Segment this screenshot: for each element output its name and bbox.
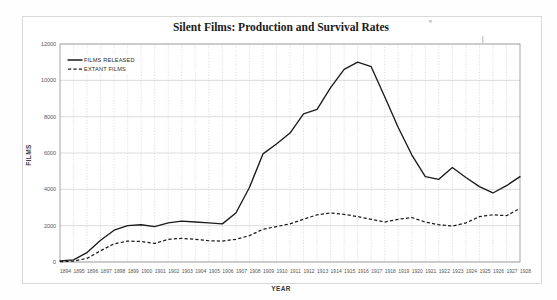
y-tick-label: 12000: [41, 41, 56, 47]
x-tick-label: 1894: [60, 268, 71, 274]
scan-speck: [482, 36, 484, 43]
x-tick-label: 1919: [398, 268, 409, 274]
x-tick-label: 1904: [195, 268, 206, 274]
x-tick-label: 1895: [74, 268, 85, 274]
scan-speck: [429, 20, 432, 23]
figure-container: Silent Films: Production and Survival Ra…: [0, 0, 557, 300]
x-tick-label: 1915: [344, 268, 355, 274]
x-tick-label: 1903: [182, 268, 193, 274]
x-tick-label: 1899: [128, 268, 139, 274]
x-tick-label: 1917: [371, 268, 382, 274]
x-tick-label: 1905: [209, 268, 220, 274]
y-tick-label: 6000: [44, 150, 56, 156]
x-tick-label: 1927: [506, 268, 517, 274]
x-tick-label: 1900: [141, 268, 152, 274]
x-tick-label: 1909: [263, 268, 274, 274]
x-tick-label: 1922: [439, 268, 450, 274]
x-tick-label: 1928: [520, 268, 531, 274]
x-tick-label: 1924: [466, 268, 477, 274]
x-tick-label: 1907: [236, 268, 247, 274]
x-tick-label: 1896: [87, 268, 98, 274]
x-tick-label: 1914: [331, 268, 342, 274]
x-tick-label: 1910: [276, 268, 287, 274]
x-tick-label: 1911: [290, 268, 301, 274]
x-tick-label: 1902: [168, 268, 179, 274]
x-tick-label: 1918: [385, 268, 396, 274]
x-tick-label: 1913: [317, 268, 328, 274]
y-tick-label: 0: [53, 259, 56, 265]
x-tick-label: 1912: [304, 268, 315, 274]
y-tick-label: 2000: [44, 223, 56, 229]
x-tick-label: 1916: [358, 268, 369, 274]
x-tick-label: 1908: [249, 268, 260, 274]
x-tick-label: 1897: [101, 268, 112, 274]
x-tick-label: 1906: [222, 268, 233, 274]
y-axis-title: FILMS: [25, 144, 32, 166]
chart-title: Silent Films: Production and Survival Ra…: [173, 21, 390, 33]
legend-label-2: EXTANT FILMS: [84, 66, 126, 72]
x-tick-label: 1901: [155, 268, 166, 274]
legend-label-1: FILMS RELEASED: [84, 57, 135, 63]
x-tick-label: 1925: [479, 268, 490, 274]
x-axis-title: YEAR: [271, 285, 291, 292]
x-tick-label: 1898: [114, 268, 125, 274]
y-tick-label: 10000: [41, 77, 56, 83]
x-tick-label: 1920: [412, 268, 423, 274]
silent-films-line-chart: Silent Films: Production and Survival Ra…: [0, 0, 557, 300]
x-tick-label: 1923: [452, 268, 463, 274]
y-tick-label: 8000: [44, 114, 56, 120]
y-tick-label: 4000: [44, 186, 56, 192]
x-tick-label: 1926: [493, 268, 504, 274]
x-tick-label: 1921: [425, 268, 436, 274]
